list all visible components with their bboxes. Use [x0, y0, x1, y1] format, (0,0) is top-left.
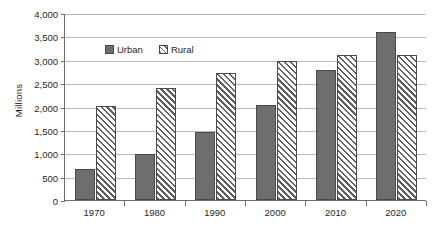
y-axis-tick-mark: [61, 178, 65, 179]
x-axis-tick-label-2000: 2000: [265, 207, 286, 218]
hatched-swatch: [159, 45, 168, 54]
x-axis-tick-marks: [64, 201, 426, 206]
x-axis-tick-mark: [305, 201, 306, 206]
bar-urban-2010: [316, 70, 336, 200]
bar-group: [125, 14, 185, 200]
solid-gray-swatch: [105, 45, 114, 54]
bar-group: [186, 14, 246, 200]
y-axis-tick-mark: [61, 84, 65, 85]
x-axis-tick-label-1970: 1970: [84, 207, 105, 218]
legend-entry-urban: Urban: [105, 44, 143, 55]
bar-urban-2000: [256, 105, 276, 200]
bar-rural-1980: [156, 88, 176, 200]
x-axis-tick-label-2010: 2010: [325, 207, 346, 218]
bar-rural-2000: [277, 61, 297, 200]
y-axis-title-label: Millions: [14, 83, 25, 116]
bar-urban-1970: [75, 169, 95, 200]
bar-group: [367, 14, 427, 200]
y-axis-tick-label: 2,500: [34, 79, 58, 90]
y-axis-tick-mark: [61, 61, 65, 62]
bar-rural-1990: [216, 73, 236, 200]
y-axis-tick-mark: [61, 37, 65, 38]
x-axis-tick-mark: [426, 201, 427, 206]
y-axis-tick-label: 1,500: [34, 125, 58, 136]
y-axis-tick-mark: [61, 131, 65, 132]
bar-series-layer: [65, 14, 426, 200]
x-axis-tick-label-1980: 1980: [144, 207, 165, 218]
x-axis-tick-mark: [124, 201, 125, 206]
y-axis-tick-label: 3,000: [34, 55, 58, 66]
y-axis-tick-label: 4,000: [34, 9, 58, 20]
x-axis-tick-label-1990: 1990: [204, 207, 225, 218]
legend-label-urban: Urban: [117, 44, 143, 55]
bar-group: [65, 14, 125, 200]
chart-legend: UrbanRural: [105, 44, 194, 55]
x-axis-tick-mark: [185, 201, 186, 206]
bar-rural-2020: [397, 55, 417, 200]
bar-chart-figure: Millions 05001,0001,5002,0002,5003,0003,…: [0, 0, 447, 237]
bar-urban-1980: [135, 154, 155, 200]
y-axis-tick-label: 500: [42, 172, 58, 183]
y-axis-tick-labels: 05001,0001,5002,0002,5003,0003,5004,000: [26, 14, 62, 201]
y-axis-tick-label: 3,500: [34, 32, 58, 43]
x-axis-tick-labels: 197019801990200020102020: [64, 207, 426, 223]
bar-rural-2010: [337, 55, 357, 200]
legend-entry-rural: Rural: [159, 44, 194, 55]
bar-group: [246, 14, 306, 200]
legend-label-rural: Rural: [171, 44, 194, 55]
bar-urban-2020: [376, 32, 396, 200]
x-axis-tick-label-2020: 2020: [385, 207, 406, 218]
y-axis-tick-label: 0: [53, 196, 58, 207]
bar-urban-1990: [195, 132, 215, 200]
bar-group: [306, 14, 366, 200]
y-axis-tick-mark: [61, 108, 65, 109]
bar-rural-1970: [96, 106, 116, 200]
y-axis-tick-mark: [61, 154, 65, 155]
plot-area: [64, 14, 426, 201]
y-axis-tick-label: 2,000: [34, 102, 58, 113]
y-axis-tick-label: 1,000: [34, 149, 58, 160]
x-axis-tick-mark: [366, 201, 367, 206]
y-axis-tick-mark: [61, 14, 65, 15]
x-axis-tick-mark: [245, 201, 246, 206]
